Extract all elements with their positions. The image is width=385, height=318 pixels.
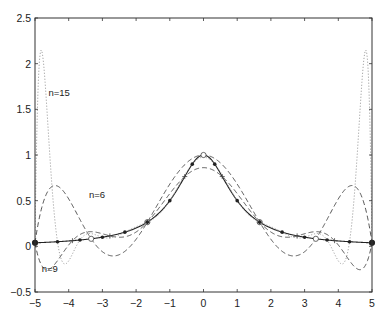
x-tick-label: −1 <box>164 297 176 309</box>
node-marker-dot <box>213 162 217 166</box>
plot-lines <box>35 50 372 270</box>
annotation-n-15: n=15 <box>48 87 69 98</box>
y-tick-label: 2 <box>25 58 31 70</box>
node-marker-circle <box>313 236 318 241</box>
y-tick-label: 0 <box>25 240 31 252</box>
node-marker-dot <box>235 199 239 203</box>
node-marker-dot <box>190 162 194 166</box>
x-tick-label: −4 <box>63 297 75 309</box>
node-marker-dot <box>78 238 82 242</box>
series-n-9 <box>35 168 372 270</box>
annotation-n-6: n=6 <box>89 189 105 200</box>
y-tick-label: 2.5 <box>16 12 31 24</box>
x-tick-label: −2 <box>130 297 142 309</box>
x-tick-label: 1 <box>234 297 240 309</box>
node-marker-circle <box>201 152 206 157</box>
x-tick-label: −3 <box>96 297 108 309</box>
x-tick-label: −5 <box>29 297 41 309</box>
node-marker-dot <box>303 235 307 239</box>
node-marker-dot <box>56 240 60 244</box>
series-f-x- <box>35 155 372 243</box>
y-tick-label: 0.5 <box>16 195 31 207</box>
series-n-6 <box>35 155 372 256</box>
x-tick-label: 5 <box>369 297 375 309</box>
node-marker-dot <box>123 230 127 234</box>
node-marker-dot <box>325 238 329 242</box>
x-tick-label: 3 <box>302 297 308 309</box>
x-tick-label: 4 <box>335 297 341 309</box>
runge-interpolation-chart: −5−4−3−2−1012345 −0.500.511.522.5 n=15n=… <box>0 0 385 318</box>
node-marker-dot <box>280 230 284 234</box>
node-marker-circle <box>89 236 94 241</box>
x-tick-label: 2 <box>268 297 274 309</box>
data-markers <box>32 152 375 245</box>
x-tick-label: 0 <box>201 297 207 309</box>
annotation-n-9: n=9 <box>42 263 58 274</box>
x-axis: −5−4−3−2−1012345 <box>29 18 375 309</box>
node-marker-plus <box>107 233 112 238</box>
y-tick-label: 1 <box>25 149 31 161</box>
y-axis: −0.500.511.522.5 <box>10 12 372 298</box>
node-marker-dot <box>348 240 352 244</box>
node-marker-dot <box>258 220 262 224</box>
y-tick-label: 1.5 <box>16 103 31 115</box>
annotations: n=15n=6n=9 <box>42 87 105 274</box>
y-tick-label: −0.5 <box>10 286 31 298</box>
node-marker-dot <box>146 220 150 224</box>
node-marker-dot <box>101 235 105 239</box>
node-marker-dot <box>168 199 172 203</box>
node-marker-plus <box>295 233 300 238</box>
